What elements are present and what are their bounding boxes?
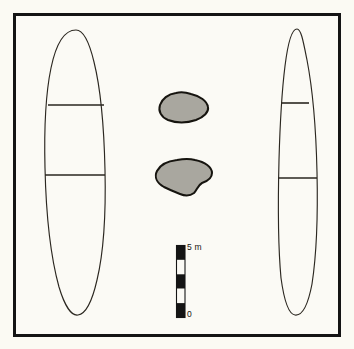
plan-drawing-canvas	[0, 0, 354, 349]
feature-west-outline	[45, 30, 105, 315]
scalebar	[177, 246, 186, 318]
scalebar-bottom-label: 0	[187, 310, 192, 319]
site-plan-figure: 5 m 0	[0, 0, 354, 349]
feature-east-outline	[278, 29, 317, 315]
scalebar-segment-1	[177, 303, 186, 317]
scalebar-segment-5	[177, 246, 186, 260]
scalebar-segment-2	[177, 289, 186, 303]
scalebar-top-label: 5 m	[187, 243, 202, 252]
stone-lower-blob	[156, 159, 212, 196]
stone-upper-blob	[159, 92, 208, 122]
scalebar-segment-3	[177, 274, 186, 288]
scalebar-segment-4	[177, 260, 186, 274]
